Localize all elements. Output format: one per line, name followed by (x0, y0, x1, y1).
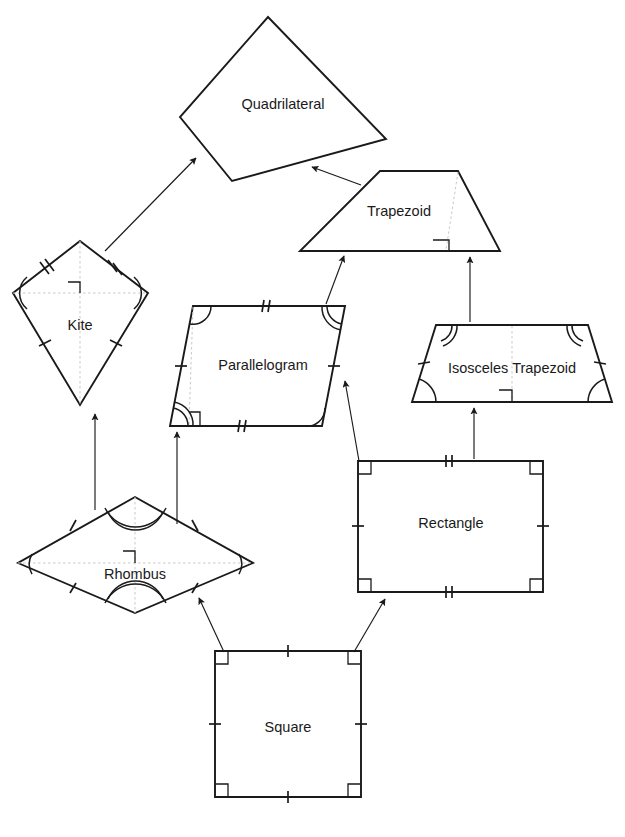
rhombus-label: Rhombus (104, 566, 166, 582)
connector-trapezoid-to-quadrilateral (312, 167, 361, 185)
isosceles-trapezoid-label: Isosceles Trapezoid (448, 360, 576, 376)
shape-square[interactable]: Square (209, 645, 367, 803)
square-label: Square (265, 719, 312, 735)
shape-quadrilateral[interactable]: Quadrilateral (180, 17, 386, 181)
kite-label: Kite (68, 317, 93, 333)
shape-parallelogram[interactable]: Parallelogram (170, 300, 345, 432)
shape-trapezoid[interactable]: Trapezoid (300, 171, 500, 251)
shape-isosceles-trapezoid[interactable]: Isosceles Trapezoid (412, 325, 612, 402)
connector-parallelogram-to-trapezoid (326, 256, 344, 304)
connector-square-to-rhombus (199, 598, 224, 652)
shape-kite[interactable]: Kite (13, 241, 148, 405)
quadrilateral-label: Quadrilateral (241, 96, 324, 112)
shape-rhombus[interactable]: Rhombus (18, 497, 253, 613)
quadrilateral-hierarchy-diagram: Quadrilateral Trapezoid Kite (0, 0, 625, 837)
connector-rectangle-to-parallelogram (345, 381, 359, 461)
parallelogram-label: Parallelogram (218, 357, 307, 373)
shape-rectangle[interactable]: Rectangle (352, 455, 549, 598)
connector-kite-to-quadrilateral (105, 158, 196, 251)
connector-square-to-rectangle (354, 599, 385, 652)
diagram-canvas: Quadrilateral Trapezoid Kite (0, 0, 625, 837)
rhombus-tick-top-left (70, 520, 76, 531)
rectangle-label: Rectangle (418, 515, 483, 531)
trapezoid-label: Trapezoid (367, 203, 431, 219)
